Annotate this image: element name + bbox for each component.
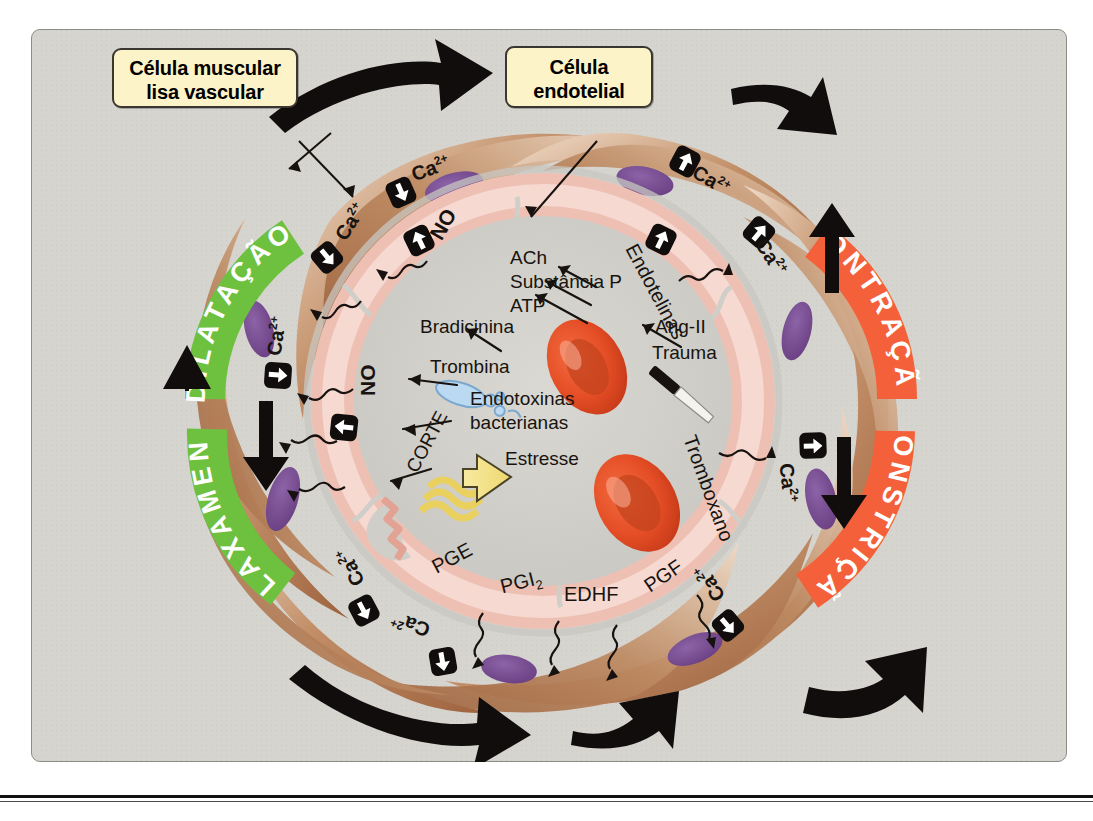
- callout-line-1: Célula: [507, 56, 651, 80]
- ca-text: Ca: [775, 462, 800, 490]
- label-edhf: EDHF: [564, 583, 618, 606]
- chip-ca-down-left-mid: [264, 362, 293, 390]
- label-bradicinina: Bradicinina: [420, 316, 514, 338]
- label-no-left: NO: [356, 365, 380, 397]
- footer-rule: [0, 795, 1093, 798]
- label-estresse: Estresse: [505, 448, 579, 470]
- callout-line-1: Célula muscular: [114, 57, 296, 81]
- footer-rule-thin: [0, 801, 1093, 802]
- label-substancia-p: Substância P: [510, 271, 622, 293]
- chip-ca-bottom-left-inner: [428, 646, 458, 677]
- label-ach: ACh: [510, 247, 547, 269]
- label-endotoxinas-line2: bacterianas: [470, 412, 568, 434]
- label-atp: ATP: [510, 295, 546, 317]
- chip-ca-up-right-mid: [799, 432, 827, 459]
- label-endotoxinas-line1: Endotoxinas: [470, 388, 575, 410]
- figure-canvas: DILATAÇÃO RELAXAMENTO CONTRAÇÃO CONSTRIÇ…: [0, 0, 1093, 821]
- label-trauma: Trauma: [652, 342, 717, 364]
- label-trombina: Trombina: [430, 356, 510, 378]
- endothelial-cell-callout: Célula endotelial: [505, 46, 653, 108]
- ca-superscript: 2+: [787, 487, 802, 502]
- ca-superscript: 2+: [266, 315, 282, 331]
- label-ca-right-mid: Ca2+: [774, 462, 802, 504]
- smooth-muscle-cell-callout: Célula muscular lisa vascular: [112, 48, 298, 108]
- ca-text: Ca: [263, 329, 288, 357]
- chip-no-up-left: [329, 413, 359, 442]
- callout-line-2: lisa vascular: [114, 81, 296, 105]
- callout-line-2: endotelial: [507, 80, 651, 104]
